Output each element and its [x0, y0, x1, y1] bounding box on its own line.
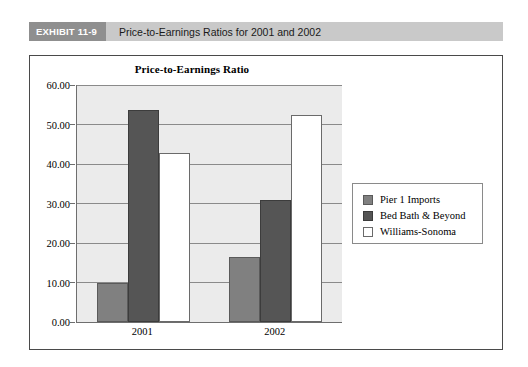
legend-label: Williams-Sonoma	[380, 226, 456, 237]
exhibit-title: Price-to-Earnings Ratios for 2001 and 20…	[106, 26, 321, 38]
y-axis-tick-label: 50.00	[24, 119, 70, 130]
y-axis-tick-mark	[70, 164, 75, 165]
y-axis-tick-mark	[70, 243, 75, 244]
legend-swatch-icon	[363, 227, 373, 237]
y-axis-tick-label: 10.00	[24, 277, 70, 288]
legend-item-williams-sonoma[interactable]: Williams-Sonoma	[363, 224, 482, 239]
y-axis-tick-label: 60.00	[24, 80, 70, 91]
bar-2001-pier-1-imports	[97, 283, 128, 323]
exhibit-number-tag: EXHIBIT 11-9	[29, 22, 106, 41]
legend-item-bed-bath-beyond[interactable]: Bed Bath & Beyond	[363, 208, 482, 223]
bar-2002-pier-1-imports	[229, 257, 260, 322]
y-axis-labels: 0.0010.0020.0030.0040.0050.0060.00	[22, 85, 70, 322]
plot-area	[76, 85, 342, 323]
y-axis-tick-mark	[70, 322, 75, 323]
y-axis-tick-label: 20.00	[24, 238, 70, 249]
chart-title: Price-to-Earnings Ratio	[47, 63, 337, 75]
legend-item-pier-1-imports[interactable]: Pier 1 Imports	[363, 192, 482, 207]
x-axis-category-label-2002: 2002	[264, 326, 285, 337]
legend-swatch-icon	[363, 195, 373, 205]
x-axis-category-label-2001: 2001	[132, 326, 153, 337]
y-axis-tick-label: 30.00	[24, 198, 70, 209]
bar-2002-bed-bath-beyond	[260, 200, 291, 322]
bar-2001-williams-sonoma	[159, 153, 190, 322]
legend-label: Bed Bath & Beyond	[380, 210, 465, 221]
x-axis-labels: 20012002	[76, 326, 341, 344]
y-axis-tick-mark	[70, 282, 75, 283]
y-axis-tick-label: 0.00	[24, 317, 70, 328]
y-axis-tick-mark	[70, 203, 75, 204]
chart-legend: Pier 1 ImportsBed Bath & BeyondWilliams-…	[352, 183, 483, 244]
y-axis-tick-mark	[70, 124, 75, 125]
bar-2001-bed-bath-beyond	[128, 110, 159, 322]
legend-swatch-icon	[363, 211, 373, 221]
y-axis-tick-label: 40.00	[24, 159, 70, 170]
gridline	[77, 85, 342, 86]
legend-label: Pier 1 Imports	[380, 194, 440, 205]
exhibit-header: EXHIBIT 11-9 Price-to-Earnings Ratios fo…	[29, 22, 503, 41]
bar-2002-williams-sonoma	[291, 115, 322, 322]
y-axis-tick-mark	[70, 85, 75, 86]
